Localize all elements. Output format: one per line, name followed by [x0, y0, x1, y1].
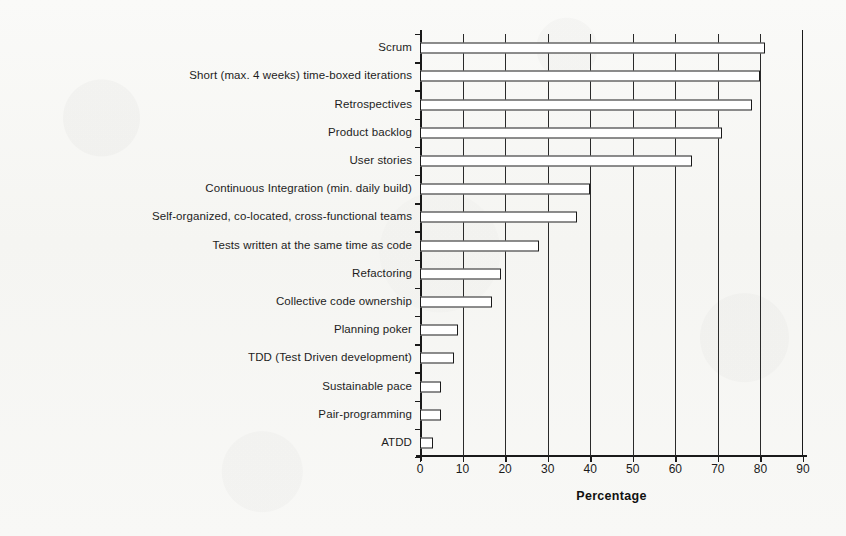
category-label: Sustainable pace: [322, 381, 412, 393]
bar: [420, 240, 539, 251]
category-label: TDD (Test Driven development): [248, 353, 412, 365]
y-tick: [415, 372, 421, 373]
y-tick: [415, 316, 421, 317]
y-tick: [415, 457, 421, 458]
category-label: Product backlog: [328, 127, 412, 139]
category-label-column: ScrumShort (max. 4 weeks) time-boxed ite…: [0, 0, 412, 536]
y-tick: [415, 260, 421, 261]
x-tick-label: 50: [626, 462, 639, 476]
gridline: [548, 34, 549, 457]
bar: [420, 353, 454, 364]
bar: [420, 184, 590, 195]
category-label: Tests written at the same time as code: [213, 240, 412, 252]
x-tick-label: 20: [498, 462, 511, 476]
category-label: Planning poker: [334, 324, 412, 336]
bar: [420, 212, 577, 223]
category-label: Short (max. 4 weeks) time-boxed iteratio…: [189, 71, 412, 83]
bar: [420, 325, 458, 336]
x-tick-label: 30: [541, 462, 554, 476]
plot-right-border: [802, 30, 803, 457]
y-tick: [415, 34, 421, 35]
category-label: Scrum: [378, 42, 412, 54]
x-tick-label: 10: [456, 462, 469, 476]
x-axis-line: [416, 455, 807, 457]
x-tick-label: 0: [417, 462, 424, 476]
y-tick: [415, 288, 421, 289]
plot-area: 0102030405060708090: [420, 34, 803, 457]
category-label: Collective code ownership: [276, 296, 412, 308]
gridline: [675, 34, 676, 457]
y-tick: [415, 62, 421, 63]
y-tick: [415, 429, 421, 430]
x-tick-label: 90: [796, 462, 809, 476]
bar: [420, 155, 692, 166]
bar: [420, 43, 765, 54]
y-tick: [415, 401, 421, 402]
category-label: Self-organized, co-located, cross-functi…: [152, 212, 412, 224]
category-label: Pair-programming: [318, 409, 412, 421]
bar: [420, 409, 441, 420]
y-tick: [415, 231, 421, 232]
x-axis-title: Percentage: [420, 489, 803, 503]
gridline: [760, 34, 761, 457]
chart-page: ScrumShort (max. 4 weeks) time-boxed ite…: [0, 0, 846, 536]
gridline: [590, 34, 591, 457]
x-tick-label: 70: [711, 462, 724, 476]
gridline: [633, 34, 634, 457]
bar: [420, 296, 492, 307]
category-label: ATDD: [381, 437, 412, 449]
x-tick-label: 60: [669, 462, 682, 476]
gridline: [718, 34, 719, 457]
category-label: Retrospectives: [335, 99, 412, 111]
bar: [420, 71, 760, 82]
y-tick: [415, 147, 421, 148]
y-tick: [415, 90, 421, 91]
bar: [420, 437, 433, 448]
category-label: User stories: [349, 155, 412, 167]
bar: [420, 381, 441, 392]
y-tick: [415, 175, 421, 176]
horizontal-bar-chart: ScrumShort (max. 4 weeks) time-boxed ite…: [0, 0, 846, 536]
bar: [420, 268, 501, 279]
bar: [420, 127, 722, 138]
x-tick-label: 80: [754, 462, 767, 476]
y-tick: [415, 344, 421, 345]
y-tick: [415, 119, 421, 120]
category-label: Refactoring: [352, 268, 412, 280]
category-label: Continuous Integration (min. daily build…: [205, 183, 412, 195]
x-tick-label: 40: [584, 462, 597, 476]
bar: [420, 99, 752, 110]
y-tick: [415, 203, 421, 204]
